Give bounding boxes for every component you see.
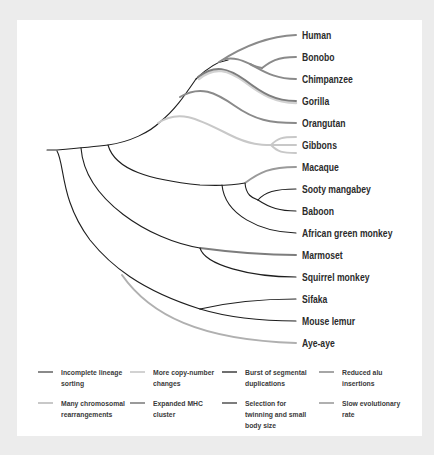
- taxon-label-human: Human: [302, 29, 331, 41]
- taxon-label-sooty-mangabey: Sooty mangabey: [302, 183, 371, 195]
- legend-label: Expanded MHC cluster: [153, 398, 213, 420]
- legend-label: Incomplete lineage sorting: [61, 367, 133, 389]
- taxon-label-baboon: Baboon: [302, 205, 334, 217]
- taxon-label-mouse-lemur: Mouse lemur: [302, 315, 355, 327]
- legend-swatch: [222, 402, 237, 404]
- legend-label: Reduced alu insertions: [342, 367, 402, 389]
- branch-ow-monkeys: [108, 145, 245, 185]
- legend-swatch: [222, 371, 237, 373]
- legend-swatch: [319, 371, 334, 373]
- taxon-label-chimpanzee: Chimpanzee: [302, 73, 353, 85]
- branch-sooty-mangabey: [258, 189, 296, 200]
- branch-sifaka: [200, 299, 296, 309]
- legend-label: More copy-number changes: [153, 367, 225, 389]
- taxon-label-marmoset: Marmoset: [302, 249, 343, 261]
- branch-aye-aye: [122, 275, 296, 343]
- branch-nw-monkeys: [81, 148, 200, 248]
- taxon-label-orangutan: Orangutan: [302, 117, 346, 129]
- legend-label: Many chromosomal rearrangements: [61, 398, 133, 420]
- legend-swatch: [130, 402, 145, 404]
- taxon-label-macaque: Macaque: [302, 161, 339, 173]
- legend-swatch: [130, 371, 145, 373]
- branch-mouse-lemur: [200, 309, 296, 321]
- branch-marmoset: [200, 248, 296, 255]
- branch-lemurs: [57, 151, 200, 309]
- taxon-label-aye-aye: Aye-aye: [302, 337, 335, 349]
- taxon-label-african-green-monkey: African green monkey: [302, 227, 392, 239]
- taxon-label-sifaka: Sifaka: [302, 293, 327, 305]
- legend-label: Slow evolutionary rate: [342, 398, 410, 420]
- branch-macaque: [245, 167, 296, 183]
- legend-swatch: [319, 402, 334, 404]
- taxon-label-gibbons: Gibbons: [302, 139, 337, 151]
- legend-swatch: [38, 371, 53, 373]
- branch-orangutan: [180, 91, 296, 123]
- taxon-label-gorilla: Gorilla: [302, 95, 329, 107]
- branch-african-green: [222, 185, 296, 233]
- branch-gorilla-shadow: [199, 71, 296, 103]
- branch-baboon: [258, 200, 296, 211]
- taxon-label-bonobo: Bonobo: [302, 51, 335, 63]
- legend-item-expanded-mhc-cluster: Expanded MHC cluster: [130, 398, 223, 420]
- legend-label: Selection for twinning and small body si…: [245, 398, 315, 431]
- branch-gibbons: [158, 116, 271, 145]
- legend-swatch: [38, 402, 53, 404]
- branch-bonobo: [262, 57, 296, 68]
- branch-gibbon-3: [271, 145, 296, 153]
- branch-gibbon-1: [271, 137, 296, 145]
- legend-item-reduced-alu-insertions: Reduced alu insertions: [319, 367, 412, 389]
- legend-item-selection-for-twinning: Selection for twinning and small body si…: [222, 398, 327, 431]
- legend-item-burst-of-segmental-duplications: Burst of segmental duplications: [222, 367, 330, 389]
- taxon-label-squirrel-monkey: Squirrel monkey: [302, 271, 369, 283]
- legend-item-slow-evolutionary-rate: Slow evolutionary rate: [319, 398, 422, 420]
- legend-label: Burst of segmental duplications: [245, 367, 317, 389]
- branch-root: [47, 79, 196, 150]
- branch-papionini: [245, 183, 258, 200]
